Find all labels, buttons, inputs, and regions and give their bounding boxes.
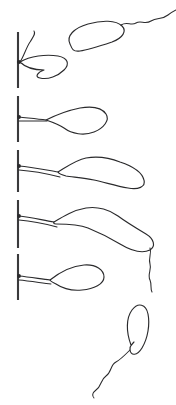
cell-attached-3-flagellum	[19, 166, 58, 172]
cell-attached-4-flagellum	[19, 216, 54, 222]
cell-free-bottom-body	[127, 305, 148, 354]
attachment-point-3	[17, 164, 21, 168]
cell-attached-1	[17, 31, 67, 79]
cell-attached-5-flagellum	[19, 276, 50, 280]
figure-canvas	[0, 0, 176, 405]
cell-attached-4-body	[54, 207, 154, 251]
attachment-point-1	[17, 60, 21, 64]
attachment-point-5	[17, 274, 21, 278]
cell-attached-5-flagellum-lower	[19, 280, 51, 284]
cell-free-bottom	[93, 305, 149, 398]
cell-attached-2	[17, 107, 107, 134]
cell-free-top-flagellum	[121, 10, 176, 25]
cell-attached-3-body	[58, 157, 144, 188]
cell-free-top	[69, 10, 176, 51]
cell-attached-5-body	[50, 265, 104, 290]
cell-attached-4	[17, 207, 153, 292]
cell-attached-2-body	[46, 107, 107, 134]
cell-attached-2-flagellum	[19, 117, 46, 120]
cell-attached-1-body	[20, 55, 67, 78]
cell-attached-4-trailing-flagellum	[149, 248, 152, 292]
attachment-point-2	[17, 115, 21, 119]
cell-free-top-body	[69, 21, 124, 51]
bacterial-attachment-figure: Bacterial attachment sequence	[0, 0, 176, 405]
cell-attached-5	[17, 265, 104, 290]
attachment-point-4	[17, 214, 21, 218]
cell-attached-3	[17, 157, 144, 188]
cell-free-bottom-flagellum	[93, 350, 130, 398]
